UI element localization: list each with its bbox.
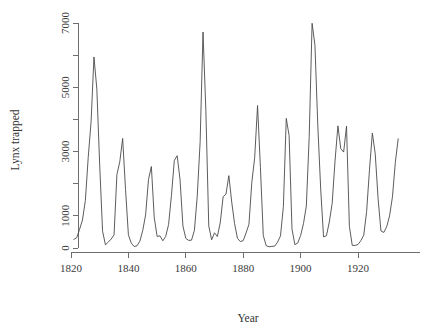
y-axis-title: Lynx trapped — [9, 109, 22, 170]
x-axis-ticks: 182018401860188019001920 — [60, 252, 370, 274]
lynx-time-series-figure: 01000300050007000 1820184018601880190019… — [0, 0, 426, 335]
y-tick-label: 7000 — [59, 12, 71, 35]
y-tick-label: 5000 — [59, 76, 71, 99]
x-tick-label: 1820 — [60, 262, 83, 274]
x-tick-label: 1840 — [117, 262, 140, 274]
x-tick-label: 1860 — [175, 262, 198, 274]
y-axis-ticks: 01000300050007000 — [59, 12, 78, 251]
x-axis-title: Year — [237, 312, 258, 324]
x-tick-label: 1880 — [232, 262, 255, 274]
x-tick-label: 1900 — [290, 262, 313, 274]
plot-canvas: 01000300050007000 1820184018601880190019… — [0, 0, 426, 335]
y-tick-label: 3000 — [59, 140, 71, 163]
x-tick-label: 1920 — [347, 262, 370, 274]
y-tick-label: 0 — [59, 245, 71, 251]
y-tick-label: 1000 — [59, 204, 71, 227]
lynx-series-line — [74, 23, 398, 246]
